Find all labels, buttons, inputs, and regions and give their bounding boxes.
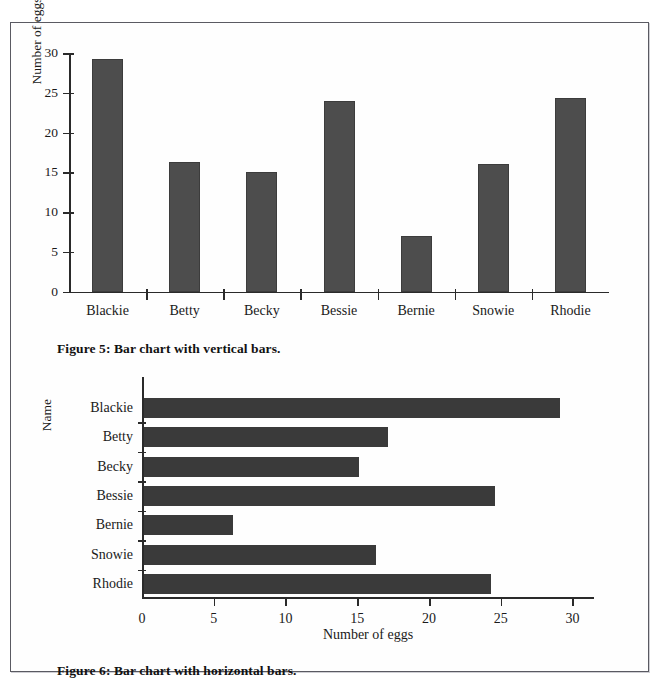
vertical-chart-x-tick xyxy=(223,289,225,300)
vertical-chart-y-tick xyxy=(63,212,74,214)
figure-6-caption: Figure 6: Bar chart with horizontal bars… xyxy=(57,663,296,679)
figure-5-vertical-bar-chart: Number of eggs 051015202530 BlackieBetty… xyxy=(11,23,650,323)
vertical-bar xyxy=(555,98,586,291)
horizontal-chart-y-tick xyxy=(138,540,146,542)
vertical-chart-category-label: Betty xyxy=(170,303,200,319)
vertical-chart-category-label: Rhodie xyxy=(550,303,590,319)
figure-5-caption: Figure 5: Bar chart with vertical bars. xyxy=(57,341,281,357)
horizontal-chart-category-label: Snowie xyxy=(91,548,133,562)
figure-6-horizontal-bar-chart: BlackieBettyBeckyBessieBernieSnowieRhodi… xyxy=(11,375,650,655)
horizontal-chart-category-label: Betty xyxy=(103,430,133,444)
horizontal-chart-x-tick-label: 15 xyxy=(350,611,364,627)
vertical-chart-y-tick xyxy=(63,172,74,174)
horizontal-chart-y-tick xyxy=(138,481,146,483)
vertical-chart-category-label: Bessie xyxy=(321,303,358,319)
vertical-chart-y-tick-label: 20 xyxy=(45,126,59,140)
horizontal-chart-category-label: Blackie xyxy=(90,401,133,415)
vertical-chart-x-tick xyxy=(532,289,534,300)
vertical-chart-y-tick xyxy=(63,53,74,55)
horizontal-chart-category-label: Bessie xyxy=(96,489,133,503)
vertical-chart-y-tick-label: 10 xyxy=(45,205,59,219)
vertical-chart-y-tick-label: 25 xyxy=(45,86,59,100)
vertical-bar xyxy=(246,172,277,291)
horizontal-chart-x-tick-label: 0 xyxy=(139,611,146,627)
vertical-chart-category-label: Blackie xyxy=(86,303,129,319)
horizontal-chart-x-tick-label: 10 xyxy=(278,611,292,627)
horizontal-bar xyxy=(144,515,233,535)
page-frame: Number of eggs 051015202530 BlackieBetty… xyxy=(10,22,649,672)
horizontal-chart-x-tick-label: 30 xyxy=(565,611,579,627)
horizontal-chart-x-tick xyxy=(357,597,359,606)
horizontal-chart-x-axis-label: Number of eggs xyxy=(142,627,594,643)
horizontal-chart-x-tick-label: 20 xyxy=(422,611,436,627)
horizontal-chart-category-label: Rhodie xyxy=(93,577,133,591)
vertical-bar xyxy=(324,101,355,292)
vertical-chart-y-tick xyxy=(63,133,74,135)
horizontal-chart-plot-area: BlackieBettyBeckyBessieBernieSnowieRhodi… xyxy=(142,393,572,599)
vertical-chart-x-tick xyxy=(146,289,148,300)
horizontal-chart-x-tick xyxy=(429,597,431,606)
horizontal-chart-y-axis-label: Name xyxy=(39,355,55,475)
vertical-chart-category-label: Snowie xyxy=(472,303,514,319)
vertical-chart-y-tick xyxy=(63,93,74,95)
horizontal-chart-y-tick xyxy=(138,570,146,572)
horizontal-bar xyxy=(144,427,388,447)
vertical-bar xyxy=(478,164,509,291)
horizontal-bar xyxy=(144,486,496,506)
vertical-chart-y-tick xyxy=(63,292,74,294)
vertical-chart-y-tick-label: 0 xyxy=(51,285,58,299)
horizontal-chart-y-tick xyxy=(138,511,146,513)
horizontal-chart-x-tick xyxy=(501,597,503,606)
vertical-chart-y-tick-label: 5 xyxy=(51,245,58,259)
vertical-bar xyxy=(401,236,432,292)
horizontal-chart-x-tick xyxy=(214,597,216,606)
vertical-chart-plot-area: 051015202530 BlackieBettyBeckyBessieBern… xyxy=(69,53,609,293)
vertical-chart-x-tick xyxy=(300,289,302,300)
vertical-chart-x-tick xyxy=(378,289,380,300)
horizontal-chart-category-label: Bernie xyxy=(96,518,133,532)
vertical-chart-y-axis-label: Number of eggs xyxy=(29,0,45,101)
vertical-chart-y-tick xyxy=(63,252,74,254)
vertical-chart-x-tick xyxy=(455,289,457,300)
vertical-chart-y-tick-label: 30 xyxy=(45,46,59,60)
horizontal-chart-category-label: Becky xyxy=(97,460,133,474)
horizontal-chart-y-tick xyxy=(138,452,146,454)
horizontal-chart-x-tick xyxy=(572,597,574,606)
vertical-chart-category-label: Bernie xyxy=(397,303,434,319)
horizontal-bar xyxy=(144,574,491,594)
vertical-chart-category-label: Becky xyxy=(244,303,280,319)
vertical-chart-y-tick-label: 15 xyxy=(45,166,59,180)
horizontal-chart-x-axis-line xyxy=(142,597,594,599)
horizontal-bar xyxy=(144,545,376,565)
horizontal-bar xyxy=(144,457,359,477)
vertical-bar xyxy=(169,162,200,292)
horizontal-bar xyxy=(144,398,560,418)
horizontal-chart-x-tick xyxy=(285,597,287,606)
horizontal-chart-y-tick xyxy=(138,422,146,424)
vertical-bar xyxy=(92,59,123,292)
horizontal-chart-x-tick-label: 5 xyxy=(210,611,217,627)
horizontal-chart-x-tick-label: 25 xyxy=(494,611,508,627)
vertical-chart-x-axis-line xyxy=(69,292,609,294)
